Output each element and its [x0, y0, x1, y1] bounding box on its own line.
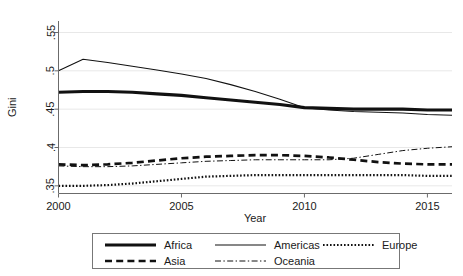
y-tick-label: .55 — [45, 25, 57, 40]
y-axis-title: Gini — [6, 97, 18, 117]
legend-label-oceania: Oceania — [274, 255, 316, 267]
legend-label-americas: Americas — [274, 239, 320, 251]
gini-line-chart: .35.4.45.5.55 2000200520102015 Gini Year… — [0, 0, 463, 276]
x-tick-label: 2015 — [415, 200, 439, 212]
y-tick-label: .35 — [45, 178, 57, 193]
legend-label-europe: Europe — [382, 239, 417, 251]
y-tick-label: .5 — [45, 66, 57, 75]
chart-canvas: .35.4.45.5.55 2000200520102015 Gini Year… — [0, 0, 463, 276]
legend-label-africa: Africa — [164, 239, 193, 251]
legend-box — [93, 234, 400, 269]
x-tick-label: 2005 — [169, 200, 193, 212]
x-tick-label: 2000 — [46, 200, 70, 212]
x-axis-title: Year — [244, 212, 267, 224]
y-tick-label: .45 — [45, 102, 57, 117]
x-tick-label: 2010 — [292, 200, 316, 212]
y-tick-label: .4 — [45, 143, 57, 152]
legend-label-asia: Asia — [164, 255, 186, 267]
